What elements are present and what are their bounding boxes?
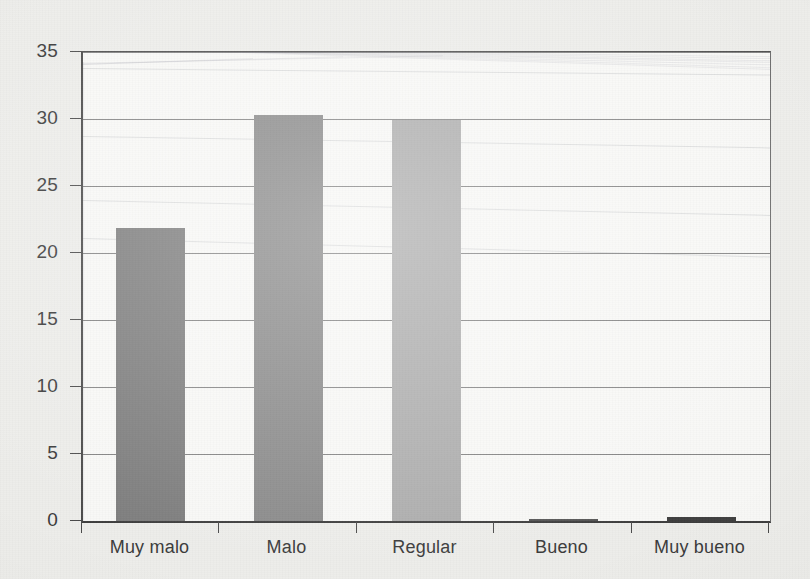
xtick-label-bueno: Bueno [493, 538, 630, 556]
ytick-label-5: 5 [12, 443, 58, 462]
xtick-mark-1 [218, 522, 219, 533]
scan-artifact-line [83, 68, 771, 76]
xtick-label-malo: Malo [218, 538, 355, 556]
ytick-mark-0 [70, 520, 81, 521]
xtick-mark-4 [631, 522, 632, 533]
ytick-mark-20 [70, 252, 81, 253]
ytick-label-0: 0 [12, 510, 58, 529]
ytick-mark-15 [70, 319, 81, 320]
scan-artifact-line [83, 322, 84, 523]
xtick-mark-0 [81, 522, 82, 533]
ytick-mark-30 [70, 118, 81, 119]
ytick-label-10: 10 [12, 376, 58, 395]
ytick-label-35: 35 [12, 41, 58, 60]
ytick-mark-35 [70, 51, 81, 52]
ytick-label-25: 25 [12, 175, 58, 194]
xtick-label-muy-malo: Muy malo [81, 538, 218, 556]
ytick-mark-5 [70, 453, 81, 454]
scan-artifact-line [83, 62, 84, 322]
ytick-label-20: 20 [12, 242, 58, 261]
bar-muy-bueno [667, 517, 736, 521]
ytick-label-15: 15 [12, 309, 58, 328]
bar-malo [254, 115, 323, 521]
xtick-mark-5 [768, 522, 769, 533]
chart-page: 35 30 25 20 15 10 5 0 Muy malo Malo Regu… [0, 0, 810, 579]
bar-bueno [529, 519, 598, 521]
bar-regular [392, 120, 461, 521]
ytick-mark-10 [70, 386, 81, 387]
ytick-label-30: 30 [12, 108, 58, 127]
bar-muy-malo [116, 228, 185, 521]
plot-area [81, 51, 771, 523]
xtick-mark-3 [493, 522, 494, 533]
xtick-label-muy-bueno: Muy bueno [631, 538, 768, 556]
ytick-mark-25 [70, 185, 81, 186]
xtick-label-regular: Regular [356, 538, 493, 556]
xtick-mark-2 [356, 522, 357, 533]
